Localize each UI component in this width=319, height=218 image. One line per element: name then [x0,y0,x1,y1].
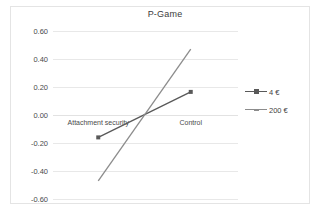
series-line [98,49,191,181]
chart-title: P-Game [90,9,240,19]
plot-area: 0.600.400.200.00-0.20-0.40-0.60 Attachme… [53,31,238,199]
series-lines [53,31,238,199]
legend-key-line-icon [245,105,267,115]
y-tick-label: 0.60 [18,27,48,36]
chart-container: P-Game 0.600.400.200.00-0.20-0.40-0.60 A… [0,0,319,218]
legend-item-series-2[interactable]: 200 € [245,101,313,119]
legend-label-series-2: 200 € [267,106,288,115]
y-tick-label: -0.60 [18,195,48,204]
chart-legend: 4 € 200 € [245,83,313,119]
legend-key-square-icon [245,87,267,97]
data-point-marker [189,90,193,94]
y-tick-label: 0.20 [18,83,48,92]
legend-label-series-1: 4 € [267,88,279,97]
y-tick-label: 0.40 [18,55,48,64]
legend-item-series-1[interactable]: 4 € [245,83,313,101]
y-tick-label: -0.40 [18,167,48,176]
y-tick-label: 0.00 [18,111,48,120]
gridline [53,199,238,200]
y-tick-label: -0.20 [18,139,48,148]
data-point-marker [96,135,100,139]
